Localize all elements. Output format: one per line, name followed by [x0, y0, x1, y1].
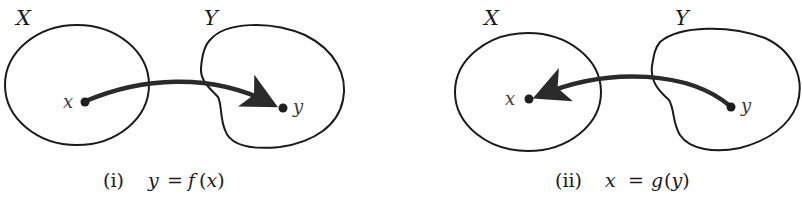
mapping-arrow-f	[86, 82, 270, 103]
point-y-label: y	[740, 95, 752, 116]
point-y	[279, 104, 288, 113]
point-x-label: x	[505, 88, 515, 109]
set-y-label: Y	[675, 6, 691, 30]
panel-i: X Y x y (i) y = f (x)	[5, 6, 344, 191]
point-x	[525, 95, 534, 104]
point-y-label: y	[292, 96, 304, 117]
set-x-label: X	[14, 6, 32, 30]
caption-i: (i) y = f (x)	[103, 169, 225, 191]
set-y-label: Y	[204, 6, 220, 30]
function-mapping-diagram: X Y x y (i) y = f (x) X Y x y (ii) x =	[0, 0, 802, 197]
caption-ii: (ii) x = g (y)	[555, 169, 690, 191]
set-x-outline	[5, 25, 149, 145]
set-x-label: X	[482, 6, 500, 30]
panel-ii: X Y x y (ii) x = g (y)	[455, 6, 800, 191]
set-x-outline	[455, 33, 601, 151]
point-x-label: x	[63, 91, 73, 112]
set-y-outline	[652, 29, 800, 151]
mapping-arrow-g	[541, 76, 730, 106]
point-x	[81, 98, 90, 107]
point-y	[727, 103, 736, 112]
